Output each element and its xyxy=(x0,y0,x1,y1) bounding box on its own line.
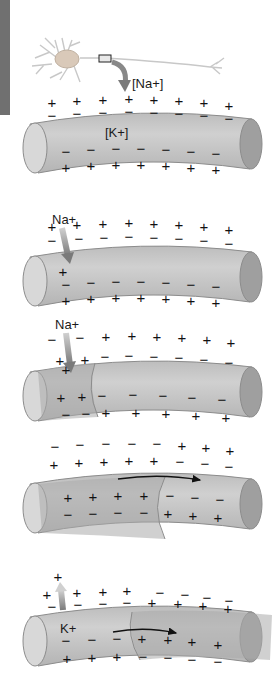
svg-text:+: + xyxy=(128,327,137,344)
svg-text:−: − xyxy=(125,103,134,120)
svg-text:−: − xyxy=(225,110,234,127)
svg-text:−: − xyxy=(139,648,148,665)
svg-text:−: − xyxy=(140,504,149,521)
k-concentration-label: [K+] xyxy=(105,125,129,140)
svg-text:+: + xyxy=(148,594,157,611)
svg-text:−: − xyxy=(87,274,96,291)
svg-text:−: − xyxy=(175,105,184,122)
svg-text:−: − xyxy=(48,232,57,249)
svg-text:+: + xyxy=(89,488,98,505)
svg-text:−: − xyxy=(48,598,57,615)
svg-text:+: + xyxy=(102,404,111,421)
svg-text:−: − xyxy=(113,630,122,647)
svg-text:+: + xyxy=(227,334,236,351)
svg-text:+: + xyxy=(87,290,96,307)
svg-text:−: − xyxy=(150,229,159,246)
svg-text:−: − xyxy=(212,145,221,162)
svg-text:+: + xyxy=(62,159,71,176)
na-concentration-label: [Na+] xyxy=(132,76,163,91)
svg-text:+: + xyxy=(114,487,123,504)
svg-text:+: + xyxy=(81,351,90,368)
svg-text:−: − xyxy=(88,631,97,648)
svg-text:−: − xyxy=(225,458,234,475)
svg-text:−: − xyxy=(48,107,57,124)
svg-text:+: + xyxy=(178,329,187,346)
svg-text:+: + xyxy=(102,328,111,345)
svg-text:+: + xyxy=(192,407,201,424)
svg-text:+: + xyxy=(63,650,72,667)
svg-text:−: − xyxy=(200,232,209,249)
svg-text:+: + xyxy=(112,289,121,306)
svg-text:−: − xyxy=(175,349,184,366)
svg-text:−: − xyxy=(159,387,168,404)
svg-text:−: − xyxy=(175,230,184,247)
svg-text:−: − xyxy=(62,632,71,649)
zoom-arrow-icon xyxy=(112,62,131,92)
svg-text:−: − xyxy=(191,489,200,506)
svg-text:−: − xyxy=(112,273,121,290)
svg-text:−: − xyxy=(187,276,196,293)
svg-text:−: − xyxy=(64,506,73,523)
svg-text:−: − xyxy=(100,229,109,246)
svg-text:+: + xyxy=(62,361,71,378)
svg-text:−: − xyxy=(74,596,83,613)
svg-text:+: + xyxy=(62,292,71,309)
axon-panel-resting: [K+] ++++++++ −−−−−−−− −−−−−−− +++++++ xyxy=(23,90,262,178)
axon-figure: [Na+] [K+] ++++++++ −−−−−−−− −−−−−−− +++… xyxy=(0,0,280,673)
svg-text:+: + xyxy=(214,509,223,526)
svg-text:+: + xyxy=(64,489,73,506)
axon-panel-propagation: −−−−−+++ +++++−−− ++++−−− −−−−+++ xyxy=(23,435,262,539)
svg-text:−: − xyxy=(214,653,223,670)
axon-panel-depolarization: Na+ −−++++++ +++−−−−−− ++−−−−− −−+++++ xyxy=(23,317,262,426)
svg-text:−: − xyxy=(98,387,107,404)
svg-text:+: + xyxy=(188,633,197,650)
svg-text:−: − xyxy=(153,435,162,452)
svg-text:−: − xyxy=(166,487,175,504)
svg-text:+: + xyxy=(125,452,134,469)
svg-text:−: − xyxy=(123,594,132,611)
svg-text:−: − xyxy=(102,435,111,452)
svg-text:+: + xyxy=(214,636,223,653)
svg-text:+: + xyxy=(54,568,63,585)
svg-text:−: − xyxy=(101,348,110,365)
svg-text:+: + xyxy=(212,294,221,311)
axon-panel-repolarization: K+ +++++−−−− −−−−++++ −−−++++ +++−−−− xyxy=(23,568,272,670)
svg-text:−: − xyxy=(99,595,108,612)
svg-text:+: + xyxy=(199,597,208,614)
svg-text:−: − xyxy=(48,331,57,348)
svg-text:−: − xyxy=(200,351,209,368)
svg-text:+: + xyxy=(178,437,187,454)
svg-text:+: + xyxy=(164,505,173,522)
svg-text:+: + xyxy=(75,454,84,471)
svg-text:−: − xyxy=(156,584,165,601)
svg-text:−: − xyxy=(89,505,98,522)
svg-text:−: − xyxy=(187,143,196,160)
svg-text:+: + xyxy=(224,600,233,617)
svg-text:−: − xyxy=(137,140,146,157)
svg-text:+: + xyxy=(187,159,196,176)
svg-text:−: − xyxy=(112,140,121,157)
svg-text:+: + xyxy=(137,156,146,173)
svg-text:−: − xyxy=(225,235,234,252)
svg-text:−: − xyxy=(150,348,159,365)
svg-text:−: − xyxy=(188,651,197,668)
svg-text:+: + xyxy=(50,456,59,473)
svg-text:+: + xyxy=(113,648,122,665)
svg-text:−: − xyxy=(137,273,146,290)
svg-text:+: + xyxy=(212,161,221,178)
svg-text:−: − xyxy=(62,276,71,293)
svg-text:−: − xyxy=(76,329,85,346)
svg-text:+: + xyxy=(140,487,149,504)
svg-text:−: − xyxy=(82,405,91,422)
svg-text:−: − xyxy=(99,104,108,121)
svg-text:−: − xyxy=(62,143,71,160)
zoom-box xyxy=(99,55,111,62)
svg-text:−: − xyxy=(164,649,173,666)
svg-text:+: + xyxy=(87,157,96,174)
svg-text:+: + xyxy=(78,388,87,405)
svg-text:−: − xyxy=(162,274,171,291)
svg-text:+: + xyxy=(150,452,159,469)
axon-panel-na-influx: Na+ ++++++++ −−−−−−−− + −−−−−−− +++++++ xyxy=(23,212,262,311)
svg-text:−: − xyxy=(176,453,185,470)
svg-text:−: − xyxy=(162,141,171,158)
